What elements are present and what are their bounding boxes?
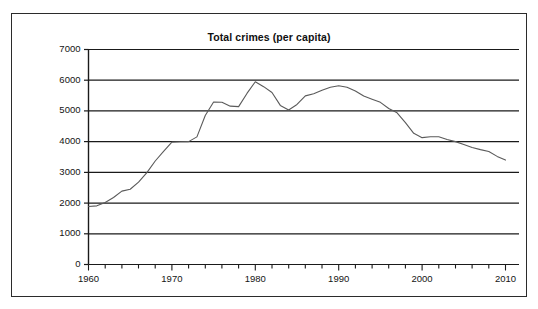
y-axis-tick-label: 5000 — [41, 104, 81, 115]
y-axis-tick-label: 4000 — [41, 135, 81, 146]
x-tick-marks-group — [89, 265, 520, 271]
line-chart-plot — [0, 0, 538, 309]
y-axis-tick-label: 3000 — [41, 166, 81, 177]
x-axis-tick-label: 1990 — [317, 273, 361, 284]
data-series-line — [89, 82, 506, 207]
x-axis-tick-label: 1970 — [150, 273, 194, 284]
gridlines-group — [89, 50, 520, 265]
x-axis-tick-label: 1980 — [233, 273, 277, 284]
chart-figure: Total crimes (per capita) 70006000500040… — [0, 0, 538, 309]
y-axis-tick-label: 0 — [41, 258, 81, 269]
x-axis-tick-label: 2000 — [400, 273, 444, 284]
y-axis-tick-label: 6000 — [41, 74, 81, 85]
y-axis-tick-label: 7000 — [41, 43, 81, 54]
x-axis-tick-label: 2010 — [484, 273, 528, 284]
y-axis-tick-label: 2000 — [41, 197, 81, 208]
y-axis-tick-label: 1000 — [41, 227, 81, 238]
x-axis-tick-label: 1960 — [67, 273, 111, 284]
